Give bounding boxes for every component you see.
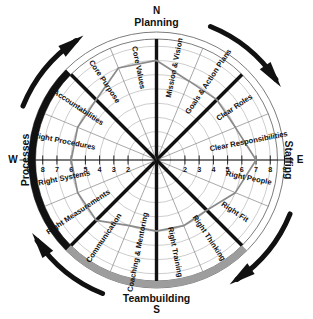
sector-label-right-procedures: Right Procedures: [32, 131, 96, 152]
compass-label-planning: Planning: [134, 16, 178, 28]
tick-number-left-8: 8: [41, 165, 45, 174]
sector-label-accountabilities: Accountabilities: [52, 87, 106, 127]
sector-label-core-values: Core Values: [130, 46, 147, 90]
tick-number-left-5: 5: [83, 165, 87, 174]
cardinal-north: N: [153, 5, 160, 16]
cardinal-east: E: [297, 154, 304, 165]
compass-label-processes: Processes: [19, 134, 31, 187]
compass-label-staffing: Staffing: [283, 140, 295, 179]
compass-wheel-diagram: Mission & VisionGoals & Action PlansClea…: [0, 0, 313, 319]
cardinal-south: S: [153, 304, 160, 315]
tick-number-left-4: 4: [98, 165, 102, 174]
tick-number-right-3: 3: [197, 165, 201, 174]
sector-label-communication: Communication: [84, 211, 124, 264]
sector-label-right-training: Right Training: [166, 226, 185, 278]
compass-label-teambuilding: Teambuilding: [123, 292, 190, 304]
cardinal-west: W: [8, 154, 18, 165]
tick-number-left-3: 3: [112, 165, 116, 174]
tick-number-left-2: 2: [126, 165, 130, 174]
tick-number-right-6: 6: [240, 165, 244, 174]
compass-wheel-svg: Mission & VisionGoals & Action PlansClea…: [0, 0, 313, 319]
tick-number-left-6: 6: [69, 165, 73, 174]
tick-number-right-8: 8: [268, 165, 272, 174]
tick-number-right-5: 5: [226, 165, 230, 174]
tick-number-left-7: 7: [55, 165, 59, 174]
tick-number-right-2: 2: [183, 165, 187, 174]
tick-number-right-7: 7: [254, 165, 258, 174]
tick-number-right-4: 4: [211, 165, 215, 174]
